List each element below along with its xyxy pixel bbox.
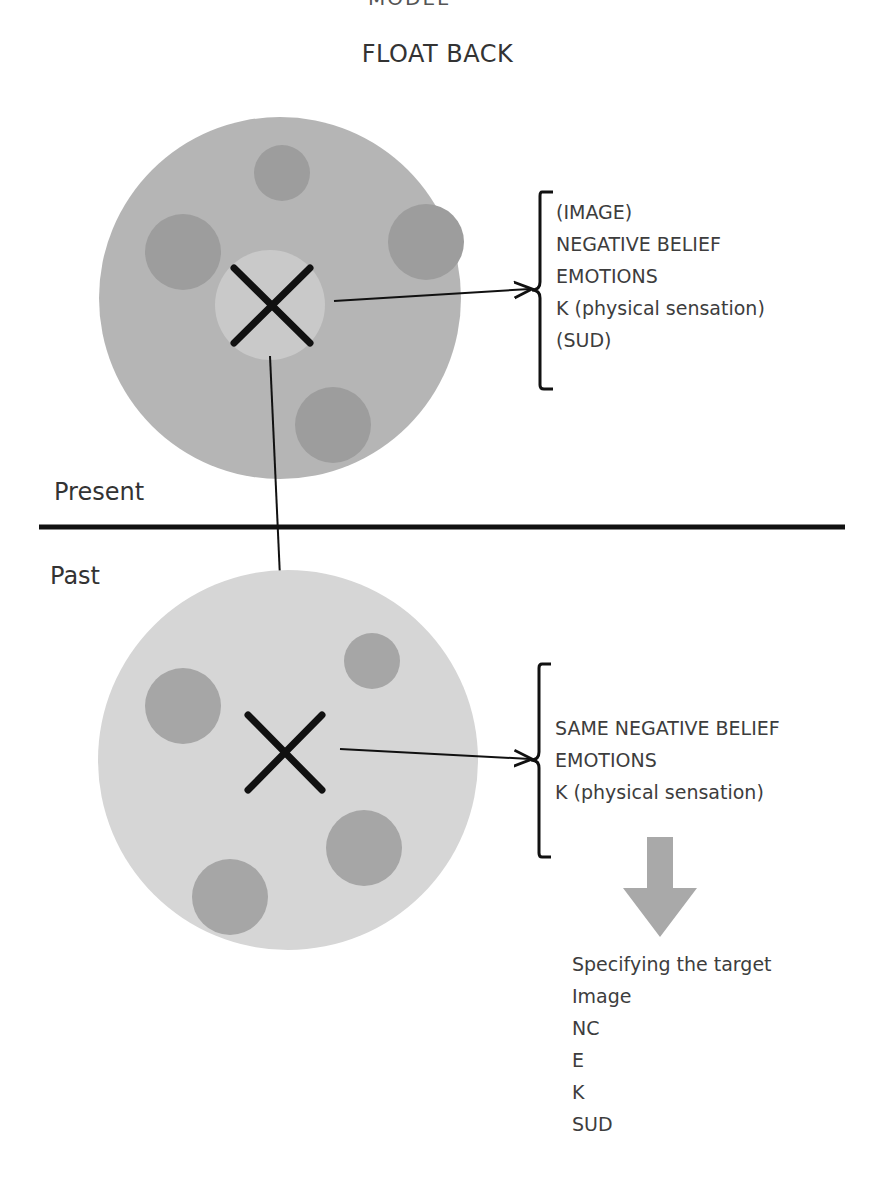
present-attributes-list: (IMAGE) NEGATIVE BELIEF EMOTIONS K (phys… bbox=[556, 196, 765, 356]
list-item: Image bbox=[572, 980, 772, 1012]
list-item: E bbox=[572, 1044, 772, 1076]
past-attributes-list: SAME NEGATIVE BELIEF EMOTIONS K (physica… bbox=[555, 712, 780, 808]
list-item: SAME NEGATIVE BELIEF bbox=[555, 712, 780, 744]
list-item: (IMAGE) bbox=[556, 196, 765, 228]
list-item: EMOTIONS bbox=[555, 744, 780, 776]
list-item: NEGATIVE BELIEF bbox=[556, 228, 765, 260]
past-circle bbox=[98, 570, 478, 950]
list-item: (SUD) bbox=[556, 324, 765, 356]
list-item: EMOTIONS bbox=[556, 260, 765, 292]
list-item: NC bbox=[572, 1012, 772, 1044]
past-label: Past bbox=[50, 562, 100, 590]
target-heading: Specifying the target bbox=[572, 948, 772, 980]
present-circle bbox=[99, 117, 464, 479]
present-brace bbox=[532, 192, 553, 389]
present-label: Present bbox=[54, 478, 144, 506]
past-brace bbox=[531, 664, 551, 857]
list-item: SUD bbox=[572, 1108, 772, 1140]
target-specification-list: Specifying the target Image NC E K SUD bbox=[572, 948, 772, 1140]
list-item: K (physical sensation) bbox=[556, 292, 765, 324]
down-arrow-icon bbox=[623, 837, 697, 937]
list-item: K bbox=[572, 1076, 772, 1108]
list-item: K (physical sensation) bbox=[555, 776, 780, 808]
